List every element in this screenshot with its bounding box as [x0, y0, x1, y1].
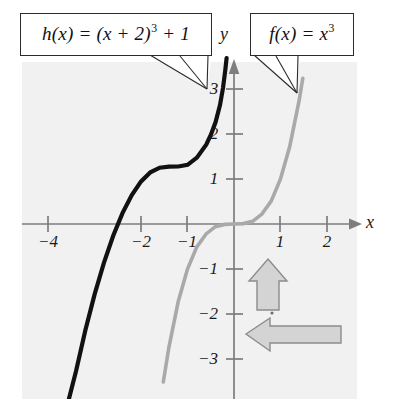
y-axis-label: y: [220, 24, 228, 45]
plot-canvas: [0, 0, 396, 399]
y-tick-label-2: 2: [206, 124, 222, 144]
x-tick-label--1: −1: [173, 232, 201, 252]
graph-figure: h(x) = (x + 2)3 + 1 f(x) = x3 x y −4 −2 …: [0, 0, 396, 399]
y-tick-label--2: −2: [194, 304, 222, 324]
x-tick-label-1: 1: [271, 232, 289, 252]
dot-mark: [270, 311, 273, 314]
x-axis-label: x: [366, 212, 374, 233]
y-tick-label-3: 3: [206, 79, 222, 99]
label-box-f: f(x) = x3: [250, 13, 354, 56]
label-box-h: h(x) = (x + 2)3 + 1: [20, 13, 212, 56]
label-h-text: h(x) = (x + 2)3 + 1: [42, 23, 190, 45]
plot-background: [22, 62, 357, 399]
y-tick-label-1: 1: [206, 169, 222, 189]
x-tick-label--2: −2: [127, 232, 155, 252]
label-f-text: f(x) = x3: [269, 23, 334, 45]
y-tick-label--3: −3: [194, 349, 222, 369]
x-tick-label-2: 2: [318, 232, 336, 252]
x-tick-label--4: −4: [34, 232, 62, 252]
y-tick-label--1: −1: [194, 259, 222, 279]
